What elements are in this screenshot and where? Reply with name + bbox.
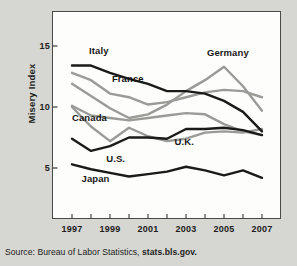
series-label-canada: Canada: [72, 112, 107, 123]
source-note: Source: Bureau of Labor Statistics, stat…: [5, 247, 197, 257]
series-line-germany: [72, 67, 262, 118]
source-site: stats.bls.gov.: [142, 247, 197, 257]
series-label-germany: Germany: [207, 47, 249, 58]
series-label-france: France: [112, 73, 144, 84]
misery-index-figure: 15 10 5 Misery Index 1997 1999 2001 2003…: [0, 0, 297, 266]
series-label-uk: U.K.: [175, 136, 194, 147]
source-prefix: Source: Bureau of Labor Statistics,: [5, 247, 140, 257]
series-label-us: U.S.: [106, 153, 125, 164]
series-label-japan: Japan: [82, 173, 110, 184]
series-label-italy: Italy: [89, 45, 109, 56]
series-lines: [0, 0, 297, 266]
